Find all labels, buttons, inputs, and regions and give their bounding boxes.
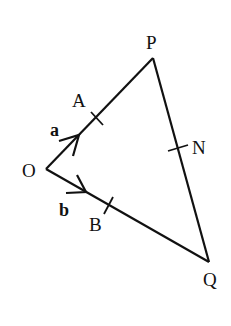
label-vector-b: b bbox=[59, 200, 69, 220]
label-N: N bbox=[192, 137, 206, 158]
segment-PQ bbox=[153, 58, 209, 262]
label-vector-a: a bbox=[50, 120, 59, 140]
tick-A bbox=[91, 112, 103, 125]
label-P: P bbox=[146, 32, 157, 53]
segment-OP bbox=[46, 58, 153, 169]
segment-OQ bbox=[46, 169, 209, 262]
label-A: A bbox=[72, 90, 86, 111]
triangle-diagram: P A O N B Q a b bbox=[0, 0, 231, 326]
label-B: B bbox=[89, 214, 102, 235]
label-O: O bbox=[22, 160, 36, 181]
label-Q: Q bbox=[203, 269, 217, 290]
